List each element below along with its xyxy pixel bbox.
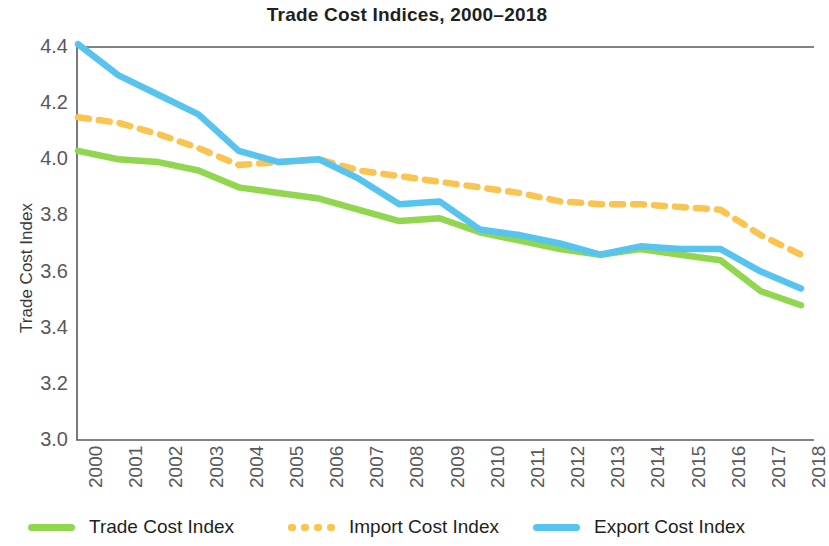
y-tick-label: 3.8 bbox=[8, 204, 68, 224]
y-tick-label: 3.0 bbox=[8, 429, 68, 449]
legend-swatch-icon bbox=[533, 524, 580, 531]
x-tick-label: 2009 bbox=[448, 446, 467, 488]
x-tick-label: 2001 bbox=[126, 446, 145, 488]
y-tick-label: 4.2 bbox=[8, 92, 68, 112]
legend-swatch-icon bbox=[28, 524, 75, 531]
x-tick-label: 2012 bbox=[568, 446, 587, 488]
chart-legend: Trade Cost IndexImport Cost IndexExport … bbox=[0, 512, 814, 546]
legend-item-export-cost-index[interactable]: Export Cost Index bbox=[533, 512, 745, 542]
x-tick-label: 2007 bbox=[367, 446, 386, 488]
legend-swatch-icon bbox=[288, 524, 335, 531]
x-tick-label: 2000 bbox=[86, 446, 105, 488]
x-tick-label: 2005 bbox=[287, 446, 306, 488]
chart-title: Trade Cost Indices, 2000–2018 bbox=[0, 4, 814, 26]
x-tick-label: 2015 bbox=[689, 446, 708, 488]
y-tick-label: 3.4 bbox=[8, 317, 68, 337]
legend-dash-segment bbox=[288, 524, 296, 531]
x-tick-label: 2014 bbox=[648, 446, 667, 488]
x-tick-label: 2018 bbox=[809, 446, 828, 488]
series-line-trade-cost-index bbox=[78, 151, 801, 305]
x-tick-label: 2003 bbox=[207, 446, 226, 488]
legend-item-import-cost-index[interactable]: Import Cost Index bbox=[288, 512, 499, 542]
x-tick-label: 2011 bbox=[528, 447, 547, 488]
legend-dash-segment bbox=[301, 524, 309, 531]
legend-item-trade-cost-index[interactable]: Trade Cost Index bbox=[28, 512, 234, 542]
y-tick-label: 3.2 bbox=[8, 373, 68, 393]
legend-label: Import Cost Index bbox=[349, 516, 499, 538]
x-tick-label: 2017 bbox=[769, 446, 788, 488]
legend-label: Trade Cost Index bbox=[89, 516, 234, 538]
x-tick-label: 2008 bbox=[407, 446, 426, 488]
legend-dash-segment bbox=[327, 524, 335, 531]
plot-area: Trade Cost Index 3.03.23.43.63.84.04.24.… bbox=[0, 40, 814, 452]
x-tick-label: 2004 bbox=[247, 446, 266, 488]
legend-label: Export Cost Index bbox=[594, 516, 745, 538]
x-tick-label: 2016 bbox=[729, 446, 748, 488]
x-tick-label: 2013 bbox=[608, 446, 627, 488]
y-tick-label: 3.6 bbox=[8, 261, 68, 281]
series-line-import-cost-index bbox=[78, 117, 801, 255]
y-tick-label: 4.4 bbox=[8, 36, 68, 56]
x-tick-label: 2002 bbox=[166, 446, 185, 488]
y-tick-label: 4.0 bbox=[8, 148, 68, 168]
chart-canvas bbox=[0, 40, 814, 452]
legend-dash-segment bbox=[314, 524, 322, 531]
x-tick-label: 2006 bbox=[327, 446, 346, 488]
x-tick-label: 2010 bbox=[488, 446, 507, 488]
